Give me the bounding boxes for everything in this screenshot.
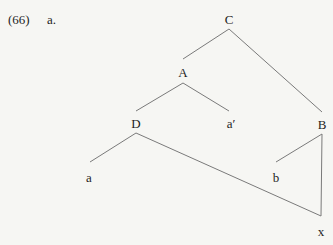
edge-c-a [183,29,229,59]
node-x: x [318,225,325,238]
node-b-lower: b [273,171,280,184]
node-d: D [131,117,140,130]
edge-d-x [136,133,321,216]
edge-a-aprime [183,83,229,111]
node-b-upper: B [318,118,327,131]
tree-diagram-page: (66) a. C A B D a′ a b x [0,0,333,245]
edge-c-b [229,29,322,112]
node-a-lower: a [86,171,92,184]
node-a-prime: a′ [227,117,236,130]
node-a-upper: A [178,66,187,79]
edge-a-d [136,83,183,111]
edge-b-x [321,134,322,216]
edge-b-b [276,134,322,162]
edge-d-a [90,133,136,162]
tree-edges [0,0,333,245]
node-c: C [225,13,234,26]
